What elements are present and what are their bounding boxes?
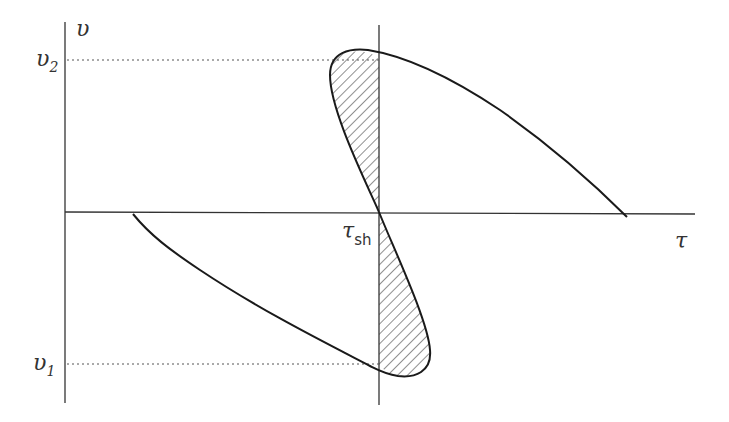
lower-hatched-area (379, 212, 430, 376)
tau-sh-label: τsh (342, 218, 372, 249)
upper-hatched-area (330, 51, 379, 212)
v2-label: υ2 (36, 46, 58, 75)
shock-diagram: υ τ υ2 υ1 τsh (0, 0, 729, 422)
v1-label: υ1 (33, 350, 55, 379)
x-axis-label: τ (675, 228, 688, 253)
y-axis-label: υ (76, 16, 89, 41)
